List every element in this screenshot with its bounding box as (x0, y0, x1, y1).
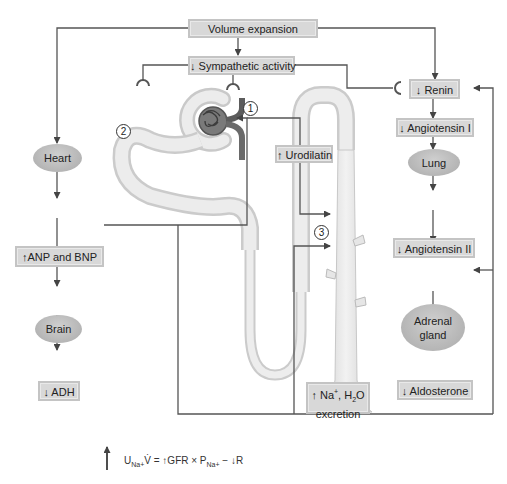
lung-node: Lung (408, 149, 460, 176)
urodilatin-box: ↑ Urodilatin (275, 145, 333, 163)
marker-2: 2 (116, 124, 131, 139)
aldosterone-box: ↓ Aldosterone (397, 380, 473, 400)
marker-1: 1 (243, 101, 258, 116)
renin-box: ↓ Renin (409, 79, 460, 99)
adrenal-gland-node: Adrenal gland (401, 304, 465, 351)
heart-node: Heart (33, 144, 82, 172)
adrenal-label-line2: gland (420, 328, 447, 342)
angiotensin-2-box: ↓ Angiotensin II (393, 238, 475, 258)
excretion-line2: excretion (308, 407, 368, 421)
marker-3: 3 (314, 225, 329, 240)
sympathetic-activity-box: ↓ Sympathetic activity (188, 56, 295, 75)
brain-node: Brain (35, 315, 82, 343)
excretion-line1: ↑ Na+, H2O (308, 385, 368, 407)
na-h2o-excretion-box: ↑ Na+, H2O excretion (306, 382, 370, 414)
volume-expansion-box: Volume expansion (188, 19, 318, 38)
anp-bnp-box: ↑ANP and BNP (15, 246, 104, 267)
excretion-formula: UNa+V̇ = ↑GFR × PNa+ − ↓R (124, 455, 243, 468)
adh-box: ↓ ADH (38, 381, 80, 401)
adrenal-label-line1: Adrenal (414, 314, 452, 328)
angiotensin-1-box: ↓ Angiotensin I (396, 118, 474, 137)
